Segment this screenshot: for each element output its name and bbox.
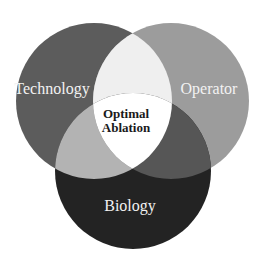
center-label-line2: Ablation [102, 120, 151, 135]
operator-label: Operator [181, 80, 239, 98]
biology-label: Biology [104, 197, 156, 215]
center-label-line1: Optimal [103, 106, 150, 121]
technology-label: Technology [14, 80, 89, 98]
venn-diagram: Technology Operator Biology Optimal Abla… [0, 0, 265, 261]
